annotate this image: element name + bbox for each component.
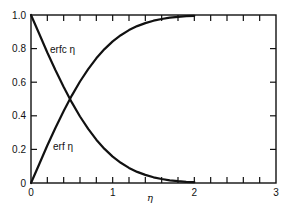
erfc-curve-label: erfc η [50,44,75,55]
x-axis-tick-labels: 0123 [28,187,279,198]
curves [31,15,194,183]
y-tick-label: 1.0 [12,10,26,21]
y-tick-label: 0.8 [12,43,26,54]
plot-frame [31,15,276,183]
y-tick-label: 0.4 [12,110,26,121]
y-tick-label: 0 [20,178,26,189]
plot-border [31,15,276,183]
x-tick-label: 1 [110,187,116,198]
y-tick-label: 0.2 [12,144,26,155]
y-axis-tick-labels: 00.20.40.60.81.0 [12,10,26,189]
chart: 00.20.40.60.81.0 0123 η erfc η erf η [0,0,290,210]
x-tick-label: 3 [273,187,279,198]
x-tick-label: 0 [28,187,34,198]
x-axis-label: η [147,192,153,203]
x-tick-label: 2 [192,187,198,198]
erf-curve-label: erf η [53,141,73,152]
axis-ticks [31,15,276,183]
y-tick-label: 0.6 [12,77,26,88]
